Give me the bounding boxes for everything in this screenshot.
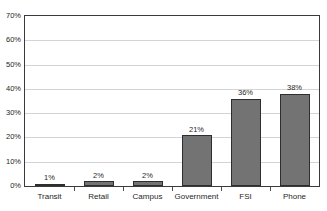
bar-slot: 36% bbox=[221, 16, 270, 186]
y-axis-tick-label: 60% bbox=[0, 36, 21, 44]
x-axis-category-label: Phone bbox=[270, 193, 319, 201]
bar-value-label: 36% bbox=[238, 89, 253, 97]
bar-slot: 2% bbox=[74, 16, 123, 186]
chart-title bbox=[0, 0, 327, 3]
x-axis-tick bbox=[123, 187, 124, 191]
bar-slot: 2% bbox=[123, 16, 172, 186]
bars-layer: 1%2%2%21%36%38% bbox=[25, 16, 319, 186]
x-axis-tick bbox=[270, 187, 271, 191]
x-axis-category-label: Retail bbox=[74, 193, 123, 201]
x-axis: TransitRetailCampusGovernmentFSIPhone bbox=[24, 187, 320, 211]
x-axis-tick bbox=[74, 187, 75, 191]
y-axis-tick-label: 70% bbox=[0, 12, 21, 20]
bar-slot: 21% bbox=[172, 16, 221, 186]
y-axis-tick-label: 10% bbox=[0, 158, 21, 166]
y-axis-tick-label: 30% bbox=[0, 109, 21, 117]
x-axis-category-label: Transit bbox=[25, 193, 74, 201]
bar[interactable] bbox=[280, 94, 310, 186]
bar[interactable] bbox=[35, 184, 65, 186]
x-axis-category-label: Government bbox=[172, 193, 221, 201]
x-axis-tick bbox=[221, 187, 222, 191]
bar[interactable] bbox=[231, 99, 261, 186]
bar-value-label: 1% bbox=[44, 174, 55, 182]
bar-value-label: 38% bbox=[287, 84, 302, 92]
bar[interactable] bbox=[84, 181, 114, 186]
bar-value-label: 2% bbox=[142, 172, 153, 180]
x-axis-tick bbox=[172, 187, 173, 191]
bar[interactable] bbox=[133, 181, 163, 186]
bar-value-label: 21% bbox=[189, 126, 204, 134]
bar-slot: 38% bbox=[270, 16, 319, 186]
y-axis-tick-label: 20% bbox=[0, 133, 21, 141]
y-axis-tick-label: 0% bbox=[0, 182, 21, 190]
y-axis-tick-label: 40% bbox=[0, 85, 21, 93]
bar-value-label: 2% bbox=[93, 172, 104, 180]
x-axis-category-label: FSI bbox=[221, 193, 270, 201]
bar-chart: 0%10%20%30%40%50%60%70% 1%2%2%21%36%38% … bbox=[0, 0, 327, 211]
bar-slot: 1% bbox=[25, 16, 74, 186]
bar[interactable] bbox=[182, 135, 212, 186]
x-axis-category-label: Campus bbox=[123, 193, 172, 201]
y-axis-tick-label: 50% bbox=[0, 61, 21, 69]
